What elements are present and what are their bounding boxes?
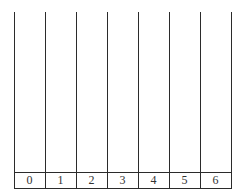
column-divider [107, 12, 108, 188]
column-divider [138, 12, 139, 188]
column-label: 0 [14, 174, 45, 187]
column-label: 3 [107, 174, 138, 187]
column-divider [200, 12, 201, 188]
column-divider [14, 12, 15, 188]
column-divider [231, 12, 232, 188]
column-label: 5 [169, 174, 200, 187]
column-label: 1 [45, 174, 76, 187]
column-divider [169, 12, 170, 188]
column-label: 6 [200, 174, 231, 187]
column-label: 4 [138, 174, 169, 187]
column-divider [45, 12, 46, 188]
label-row-bottom-border [14, 188, 232, 189]
column-divider [76, 12, 77, 188]
column-label: 2 [76, 174, 107, 187]
